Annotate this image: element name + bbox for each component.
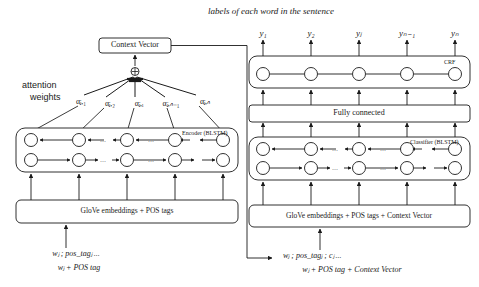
encoder-forward-ellipsis-1: ... <box>100 156 106 164</box>
output-label-yn: yₙ <box>451 29 459 38</box>
attention-weight-alpha-j-n-1: αⱼ,ₙ₋₁ <box>163 100 180 108</box>
attention-weight-alpha-j-1: αⱼ,₁ <box>76 98 86 106</box>
attention-weight-alpha-j-i: αⱼ,ᵢ <box>135 100 144 108</box>
context-vector-label: Context Vector <box>111 41 159 49</box>
architecture-diagram <box>0 0 479 287</box>
classifier-forward-ellipsis-2: ... <box>380 164 386 172</box>
classifier-forward-ellipsis-1: ... <box>332 164 338 172</box>
attention-weights-label-line2: weights <box>30 93 61 102</box>
output-label-yn-1: yₙ₋₁ <box>399 29 415 38</box>
classifier-backward-ellipsis-1: ... <box>332 145 338 153</box>
classifier-blstm-label: Classifier (BLSTM) <box>410 139 459 145</box>
left-input-line1: wⱼ ; pos_tagⱼ ... <box>52 250 99 258</box>
output-label-y1: y₁ <box>259 29 266 38</box>
output-label-y2: y₂ <box>307 29 314 38</box>
left-input-line2: wⱼ + POS tag <box>58 264 101 272</box>
output-label-yj: yⱼ <box>356 29 362 38</box>
encoder-forward-ellipsis-2: ... <box>148 156 154 164</box>
encoder-backward-ellipsis-2: ... <box>148 136 154 144</box>
left-embedding-label: GloVe embeddings + POS tags <box>81 207 174 215</box>
attention-weight-alpha-j-2: αⱼ,₂ <box>105 100 115 108</box>
encoder-blstm-label: Encoder (BLSTM) <box>182 130 228 136</box>
crf-label: CRF <box>444 59 455 65</box>
attention-weights-label-line1: attention <box>22 81 57 90</box>
right-branch-title: labels of each word in the sentence <box>208 7 334 16</box>
encoder-backward-ellipsis-1: ... <box>100 136 106 144</box>
right-input-line2: wⱼ + POS tag + Context Vector <box>302 266 401 274</box>
right-input-line1: wⱼ ; pos_tagⱼ ; cⱼ ... <box>283 252 342 260</box>
right-embedding-label: GloVe embeddings + POS tags + Context Ve… <box>286 212 432 220</box>
fully-connected-label: Fully connected <box>333 109 384 117</box>
classifier-backward-ellipsis-2: ... <box>380 145 386 153</box>
attention-weight-alpha-j-n: αⱼ,ₙ <box>200 98 210 106</box>
